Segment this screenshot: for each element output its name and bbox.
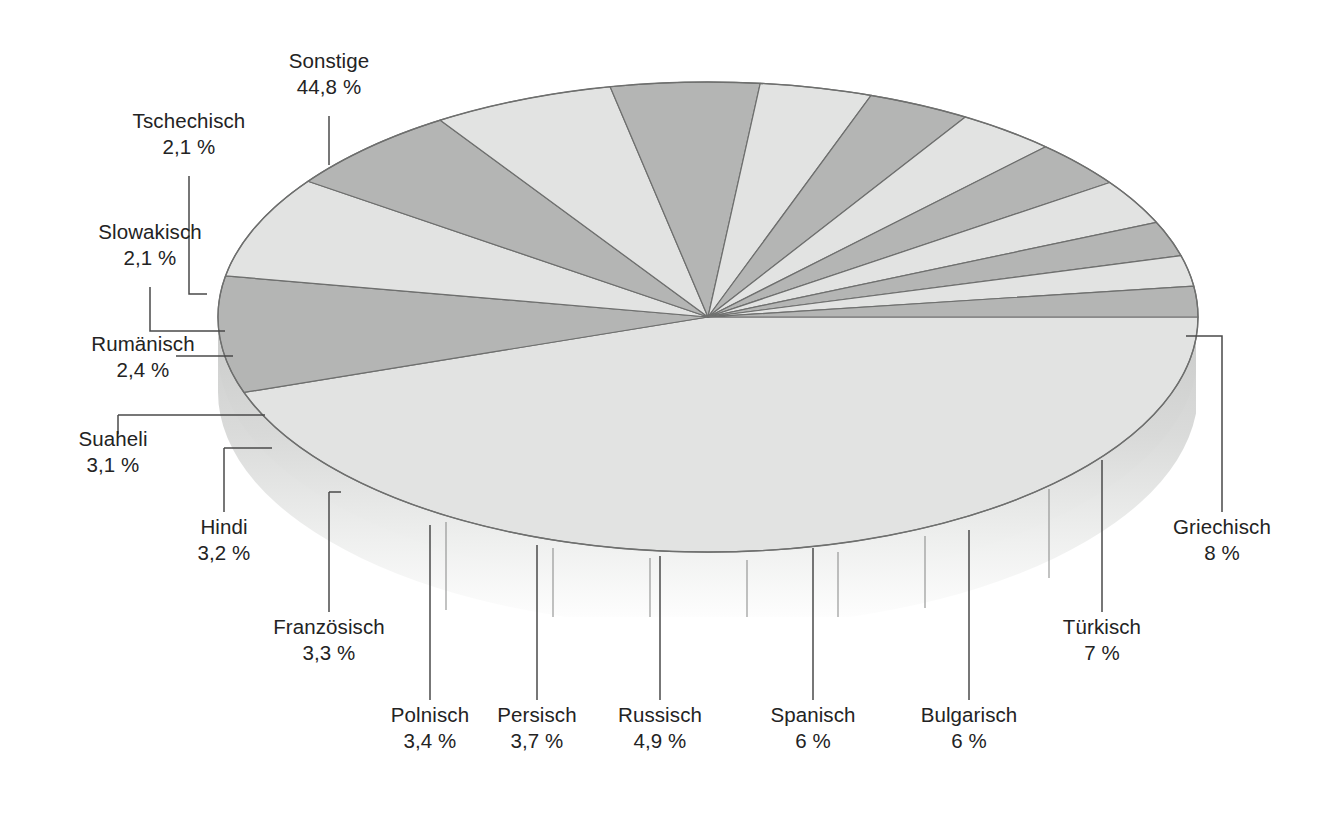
pie-top-face [218, 82, 1198, 552]
label-sonstige: Sonstige 44,8 % [249, 48, 409, 100]
label-bulgarisch-name: Bulgarisch [889, 702, 1049, 728]
pie-chart-figure: Sonstige 44,8 % Tschechisch 2,1 % Slowak… [0, 0, 1336, 824]
label-ruemaenisch: Rumänisch 2,4 % [63, 331, 223, 383]
label-suaheli-name: Suaheli [33, 426, 193, 452]
label-slowakisch-value: 2,1 % [70, 245, 230, 271]
label-tschechisch-name: Tschechisch [109, 108, 269, 134]
label-russisch: Russisch 4,9 % [580, 702, 740, 754]
label-tschechisch: Tschechisch 2,1 % [109, 108, 269, 160]
label-tuerkisch: Türkisch 7 % [1022, 614, 1182, 666]
label-slowakisch-name: Slowakisch [70, 219, 230, 245]
label-sonstige-value: 44,8 % [249, 74, 409, 100]
label-slowakisch: Slowakisch 2,1 % [70, 219, 230, 271]
label-spanisch-name: Spanisch [733, 702, 893, 728]
label-hindi-name: Hindi [144, 514, 304, 540]
label-russisch-value: 4,9 % [580, 728, 740, 754]
label-bulgarisch: Bulgarisch 6 % [889, 702, 1049, 754]
label-hindi: Hindi 3,2 % [144, 514, 304, 566]
label-griechisch-name: Griechisch [1142, 514, 1302, 540]
label-suaheli: Suaheli 3,1 % [33, 426, 193, 478]
label-franzoesisch: Französisch 3,3 % [249, 614, 409, 666]
label-franzoesisch-value: 3,3 % [249, 640, 409, 666]
leader-line-slowakisch [150, 287, 225, 331]
label-hindi-value: 3,2 % [144, 540, 304, 566]
label-franzoesisch-name: Französisch [249, 614, 409, 640]
label-griechisch-value: 8 % [1142, 540, 1302, 566]
label-bulgarisch-value: 6 % [889, 728, 1049, 754]
label-tuerkisch-name: Türkisch [1022, 614, 1182, 640]
label-spanisch: Spanisch 6 % [733, 702, 893, 754]
label-spanisch-value: 6 % [733, 728, 893, 754]
label-griechisch: Griechisch 8 % [1142, 514, 1302, 566]
label-tschechisch-value: 2,1 % [109, 134, 269, 160]
label-tuerkisch-value: 7 % [1022, 640, 1182, 666]
label-sonstige-name: Sonstige [249, 48, 409, 74]
label-russisch-name: Russisch [580, 702, 740, 728]
label-ruemaenisch-name: Rumänisch [63, 331, 223, 357]
label-ruemaenisch-value: 2,4 % [63, 357, 223, 383]
label-suaheli-value: 3,1 % [33, 452, 193, 478]
